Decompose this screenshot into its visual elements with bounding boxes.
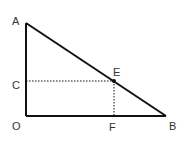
label-O: O [12, 120, 21, 132]
label-C: C [12, 79, 20, 91]
label-B: B [169, 120, 176, 132]
label-F: F [109, 121, 116, 133]
geometry-figure: A C O E F B [0, 0, 193, 146]
label-A: A [12, 15, 20, 27]
label-E: E [113, 66, 120, 78]
point-E-dot [112, 79, 116, 83]
segment-AB [26, 23, 166, 116]
